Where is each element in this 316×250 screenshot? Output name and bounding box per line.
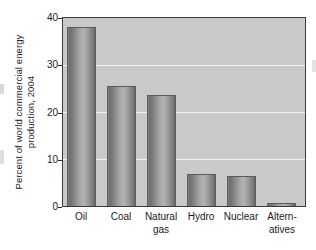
y-tick-label-30: 30 [36, 60, 58, 70]
y-tick-mark-0 [58, 207, 62, 208]
x-axis-tick-labels: Oil Coal Natural gas Hydro Nuclear Alter… [62, 210, 306, 250]
x-tick-label-natural-gas-line-1: Natural [145, 211, 177, 222]
bar-hydro [187, 174, 216, 206]
bar-natural-gas [147, 95, 176, 206]
bar-coal [107, 86, 136, 206]
plot-area [62, 17, 306, 207]
y-tick-label-0: 0 [36, 202, 58, 212]
bar-nuclear [227, 176, 256, 206]
bar-chart-figure: Percent of world commercial energy produ… [0, 0, 316, 250]
bar-alternatives [267, 203, 296, 206]
y-tick-label-20: 20 [36, 108, 58, 118]
gridline-20 [63, 112, 305, 113]
page-edge-artifact-left-2 [0, 150, 4, 164]
x-tick-label-alternatives-line-1: Altern- [267, 211, 296, 222]
page-edge-artifact-left [0, 84, 4, 94]
bar-oil [67, 27, 96, 206]
x-tick-label-hydro-line-1: Hydro [188, 211, 215, 222]
x-tick-label-alternatives: Altern- atives [254, 210, 310, 236]
gridline-10 [63, 159, 305, 160]
y-tick-label-10: 10 [36, 155, 58, 165]
x-tick-label-alternatives-line-2: atives [254, 223, 310, 236]
y-tick-label-40: 40 [36, 13, 58, 23]
page-edge-artifact-right [312, 60, 316, 72]
y-axis-title-line-1: Percent of world commercial energy [13, 35, 25, 190]
x-tick-label-oil-line-1: Oil [75, 211, 87, 222]
y-axis-title-text: Percent of world commercial energy produ… [13, 35, 37, 190]
x-tick-label-natural-gas-line-2: gas [134, 223, 188, 236]
gridline-30 [63, 65, 305, 66]
x-tick-label-coal-line-1: Coal [111, 211, 132, 222]
y-axis-tick-labels: 40 30 20 10 0 [36, 0, 58, 250]
